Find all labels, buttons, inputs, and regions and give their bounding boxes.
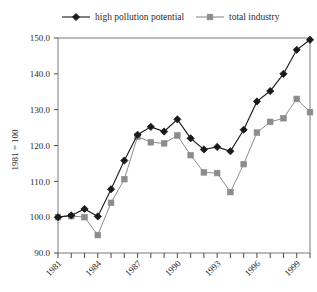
x-tick-label: 1999: [282, 258, 302, 278]
square-marker: [214, 170, 220, 176]
series-total-industry: [55, 96, 313, 238]
square-marker: [175, 133, 181, 139]
y-tick-label: 120.0: [30, 141, 51, 151]
y-tick-label: 140.0: [30, 69, 51, 79]
square-marker: [207, 14, 213, 20]
chart-legend: high pollution potentialtotal industry: [62, 12, 280, 22]
chart-figure: high pollution potentialtotal industry 1…: [0, 0, 317, 292]
square-marker: [294, 96, 300, 102]
square-marker: [95, 232, 101, 238]
square-marker: [241, 161, 247, 167]
square-marker: [108, 200, 114, 206]
y-axis-title-label: 1981 = 100: [10, 129, 20, 171]
square-marker: [267, 119, 273, 125]
data-series-group: [54, 36, 313, 238]
diamond-marker: [81, 205, 88, 212]
square-marker: [82, 214, 88, 220]
legend-entry: high pollution potential: [62, 12, 185, 22]
x-axis-ticks: 1981198419871990199319961999: [44, 253, 310, 278]
legend-label: total industry: [229, 12, 280, 22]
diamond-marker: [72, 13, 79, 20]
square-marker: [148, 139, 154, 145]
square-marker: [307, 109, 313, 115]
x-tick-label: 1987: [123, 258, 143, 278]
square-marker: [188, 152, 194, 158]
x-tick-label: 1990: [163, 258, 183, 278]
series-high-pollution-potential: [54, 36, 313, 221]
y-axis-title: 1981 = 100: [10, 129, 20, 171]
diamond-marker: [94, 213, 101, 220]
square-marker: [161, 140, 167, 146]
y-tick-label: 130.0: [30, 105, 51, 115]
diamond-marker: [107, 186, 114, 193]
x-tick-label: 1981: [44, 258, 64, 278]
square-marker: [254, 130, 260, 136]
diamond-marker: [214, 143, 221, 150]
square-marker: [228, 189, 234, 195]
x-tick-label: 1993: [203, 258, 223, 278]
x-tick-label: 1984: [83, 258, 103, 278]
y-tick-label: 110.0: [30, 177, 50, 187]
y-axis-ticks: 90.0100.0110.0120.0130.0140.0150.0: [30, 33, 58, 258]
y-tick-label: 150.0: [30, 33, 51, 43]
square-marker: [201, 170, 207, 176]
y-tick-label: 90.0: [34, 248, 50, 258]
y-tick-label: 100.0: [30, 212, 51, 222]
legend-entry: total industry: [196, 12, 280, 22]
diamond-marker: [227, 148, 234, 155]
diamond-marker: [147, 123, 154, 130]
x-tick-label: 1996: [243, 258, 263, 278]
diamond-marker: [240, 126, 247, 133]
line-chart: high pollution potentialtotal industry 1…: [0, 0, 317, 292]
series-line: [58, 40, 310, 217]
legend-label: high pollution potential: [95, 12, 185, 22]
square-marker: [281, 115, 287, 121]
square-marker: [121, 176, 127, 182]
diamond-marker: [121, 157, 128, 164]
